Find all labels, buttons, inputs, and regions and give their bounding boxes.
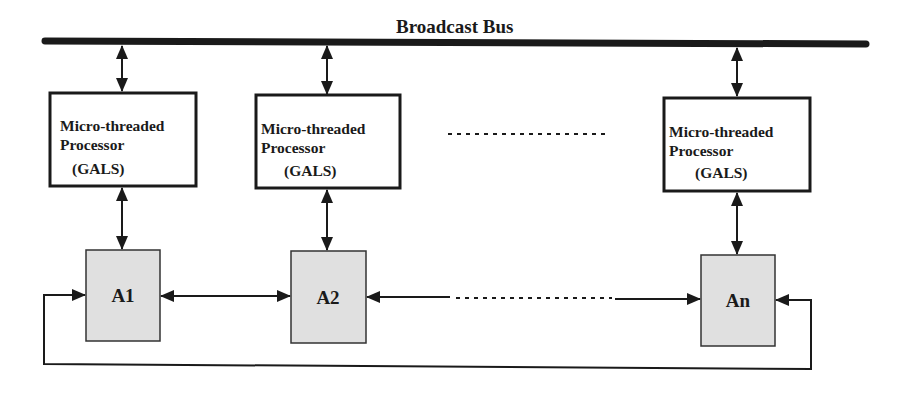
processor-1: Micro-threaded Processor (GALS) (50, 93, 196, 186)
accelerator-a2-label: A2 (316, 287, 339, 308)
broadcast-bus (45, 41, 866, 44)
processor-2-line3: (GALS) (284, 162, 337, 180)
processor-2-line2: Processor (261, 139, 325, 156)
processor-2-line1: Micro-threaded (261, 120, 366, 137)
processor-n: Micro-threaded Processor (GALS) (664, 98, 810, 191)
accelerator-a2: A2 (291, 251, 366, 343)
processor-n-line2: Processor (669, 142, 733, 159)
diagram-canvas: Broadcast Bus Micro-threaded Processor (… (0, 0, 901, 395)
bus-title: Broadcast Bus (396, 16, 513, 37)
accelerator-an: An (701, 255, 775, 346)
processor-n-line1: Micro-threaded (669, 123, 774, 140)
processor-1-line1: Micro-threaded (60, 117, 165, 134)
processor-n-line3: (GALS) (695, 164, 748, 182)
processor-2: Micro-threaded Processor (GALS) (256, 95, 400, 188)
processor-1-line3: (GALS) (72, 160, 125, 178)
accelerator-a1: A1 (86, 250, 160, 341)
accelerator-a1-label: A1 (111, 285, 134, 306)
accelerator-an-label: An (726, 290, 751, 311)
processor-1-line2: Processor (60, 136, 124, 153)
